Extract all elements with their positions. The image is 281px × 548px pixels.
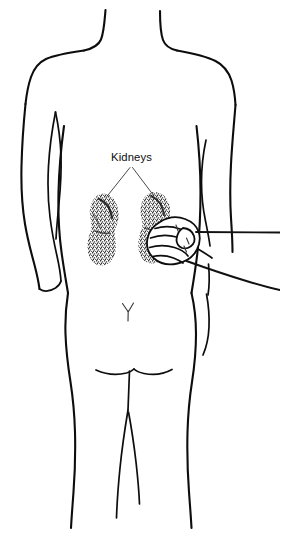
left-kidney [84,190,124,270]
hip-left-line [65,293,75,528]
kidney-percussion-figure: Kidneys [0,0,280,548]
sacral-y-mark [123,303,134,321]
shoulder-right-line [177,51,236,106]
forearm-detail-line [208,264,209,295]
gluteal-fold-left-line [96,369,134,374]
neck-right-line [160,11,177,51]
left-thigh-inner-line [117,410,129,518]
examiner-hand-group [147,217,280,295]
sacral-y-right-stroke [129,303,134,312]
right-hip-line [203,294,209,355]
wrist-crease-line [198,249,212,258]
hip-right-line [187,293,196,528]
neck-left-line [84,10,106,51]
left-hand-tip-line [40,281,62,291]
right-thigh-inner-line [129,412,140,504]
leader-line-left [107,168,131,198]
body-outline-group [21,10,235,528]
right-arm-inner-line [202,140,211,246]
forearm-upper-line [196,232,280,233]
forearm-lower-line [187,261,281,290]
leader-line-right [133,168,155,197]
shoulder-left-line [26,51,85,105]
left-arm-outer-line [21,104,39,289]
fist-thumb [177,228,195,248]
gluteal-fold-right-line [134,369,172,374]
kidneys-label: Kidneys [111,151,152,163]
gluteal-cleft-line [128,371,130,410]
right-arm-outer-line [230,105,235,252]
torso-right-flank-line [192,126,201,293]
sacral-y-left-stroke [123,304,129,312]
kidneys-callout: Kidneys [107,151,155,197]
illustration-canvas: Kidneys [0,0,280,548]
